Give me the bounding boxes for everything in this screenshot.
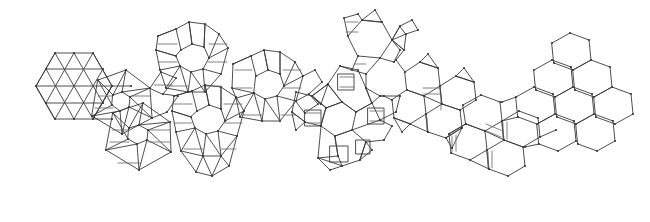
tiling-vertex: [359, 159, 361, 161]
tiling-vertex: [175, 131, 177, 133]
tiling-morph-svg: [0, 0, 650, 222]
tiling-vertex: [121, 91, 123, 93]
tiling-vertex: [112, 94, 114, 96]
tiling-vertex: [632, 113, 634, 115]
tiling-vertex: [365, 87, 367, 89]
tiling-vertex: [611, 86, 613, 88]
tiling-vertex: [522, 146, 524, 148]
tiling-vertex: [202, 68, 204, 70]
tiling-vertex: [138, 169, 140, 171]
tiling-vertex: [591, 93, 593, 95]
tiling-vertex: [391, 125, 393, 127]
tiling-vertex: [112, 112, 114, 114]
tiling-vertex: [320, 125, 322, 127]
tiling-vertex: [445, 137, 447, 139]
tiling-vertex: [399, 95, 401, 97]
tiling-vertex: [361, 19, 363, 21]
tiling-vertex: [195, 171, 197, 173]
tiling-vertex: [73, 118, 75, 120]
tiling-vertex: [551, 59, 553, 61]
tiling-vertex: [395, 111, 397, 113]
tiling-vertex: [405, 33, 407, 35]
tiling-vertex: [236, 135, 238, 137]
tiling-vertex: [427, 53, 429, 55]
tiling-vertex: [190, 116, 192, 118]
tiling-vertex: [409, 123, 411, 125]
tiling-vertex: [180, 49, 182, 51]
tiling-vertex: [218, 33, 220, 35]
tiling-vertex: [557, 150, 559, 152]
tiling-vertex: [191, 43, 193, 45]
tiling-vertex: [411, 19, 413, 21]
tiling-vertex: [401, 131, 403, 133]
tiling-vertex: [304, 112, 306, 114]
tiling-vertex: [35, 85, 37, 87]
tiling-vertex: [250, 55, 252, 57]
tiling-vertex: [73, 52, 75, 54]
tiling-vertex: [341, 101, 343, 103]
tiling-vertex: [357, 55, 359, 57]
tiling-vertex: [575, 140, 577, 142]
tiling-vertex: [232, 63, 234, 65]
tiling-vertex: [180, 150, 182, 152]
tiling-vertex: [371, 149, 373, 151]
tiling-vertex: [399, 25, 401, 27]
tiling-vertex: [427, 131, 429, 133]
tiling-vertex: [146, 139, 148, 141]
tiling-vertex: [554, 113, 556, 115]
tiling-vertex: [220, 86, 222, 88]
tiling-vertex: [253, 92, 255, 94]
tiling-diagram-figure: A horizontal chain of planar tiling patc…: [0, 0, 650, 222]
tiling-vertex: [302, 75, 304, 77]
tiling-vertex: [119, 110, 121, 112]
tiling-vertex: [151, 117, 153, 119]
tiling-vertex: [45, 102, 47, 104]
tiling-vertex: [437, 67, 439, 69]
tiling-vertex: [138, 124, 140, 126]
tiling-vertex: [395, 59, 397, 61]
tiling-vertex: [480, 94, 482, 96]
tiling-vertex: [537, 117, 539, 119]
tiling-vertex: [596, 150, 598, 152]
tiling-vertex: [227, 47, 229, 49]
tiling-vertex: [235, 97, 237, 99]
tiling-vertex: [515, 96, 517, 98]
tiling-vertex: [279, 73, 281, 75]
tiling-vertex: [552, 93, 554, 95]
tiling-vertex: [283, 85, 285, 87]
tiling-vertex: [128, 127, 130, 129]
tiling-vertex: [177, 95, 179, 97]
tiling-vertex: [383, 95, 385, 97]
tiling-vertex: [194, 127, 196, 129]
tiling-vertex: [459, 109, 461, 111]
tiling-vertex: [165, 87, 167, 89]
tiling-vertex: [391, 39, 393, 41]
tiling-vertex: [220, 108, 222, 110]
tiling-vertex: [228, 165, 230, 167]
tiling-vertex: [391, 99, 393, 101]
tiling-vertex: [121, 133, 123, 135]
tiling-vertex: [314, 69, 316, 71]
tiling-vertex: [130, 85, 132, 87]
tiling-vertex: [501, 101, 503, 103]
tiling-vertex: [255, 75, 257, 77]
tiling-vertex: [321, 81, 323, 83]
tiling-vertex: [450, 152, 452, 154]
tiling-vertex: [463, 67, 465, 69]
tiling-vertex: [175, 77, 177, 79]
tiling-vertex: [217, 130, 219, 132]
tiling-vertex: [554, 96, 556, 98]
tiling-vertex: [612, 120, 614, 122]
tiling-vertex: [243, 110, 245, 112]
tiling-vertex: [304, 121, 306, 123]
tiling-vertex: [343, 17, 345, 19]
tiling-vertex: [334, 135, 336, 137]
tiling-vertex: [54, 118, 56, 120]
tiling-vertex: [196, 110, 198, 112]
tiling-vertex: [171, 110, 173, 112]
tiling-vertex: [524, 165, 526, 167]
tiling-vertex: [337, 155, 339, 157]
tiling-vertex: [105, 149, 107, 151]
tiling-vertex: [142, 102, 144, 104]
tiling-vertex: [365, 73, 367, 75]
